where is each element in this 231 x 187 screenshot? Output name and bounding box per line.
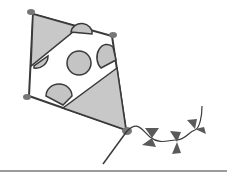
- tail-bows: [142, 119, 206, 154]
- kite-string: [103, 131, 127, 164]
- kite-illustration: [0, 0, 231, 187]
- kite-dot: [67, 51, 91, 75]
- kite: [23, 9, 132, 135]
